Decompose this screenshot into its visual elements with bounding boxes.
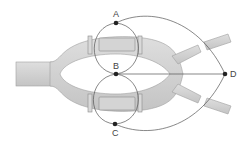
river-branch-upper-end <box>204 34 231 50</box>
bridge-3 <box>88 94 92 112</box>
bridge-1 <box>88 36 92 54</box>
node-label-d: D <box>230 69 237 79</box>
node-b <box>114 72 119 77</box>
bridge-island-top <box>99 38 135 51</box>
konigsberg-diagram: A B C D <box>0 0 248 144</box>
node-label-b: B <box>113 61 119 71</box>
river-branch-upper <box>172 45 201 64</box>
bridge-island-bottom <box>99 97 135 110</box>
node-a <box>114 21 119 26</box>
node-label-c: C <box>112 128 119 138</box>
node-label-a: A <box>113 9 119 19</box>
node-c <box>113 122 118 127</box>
node-d <box>223 72 228 77</box>
graph-edges <box>93 16 225 130</box>
river-branch-lower <box>172 84 201 103</box>
